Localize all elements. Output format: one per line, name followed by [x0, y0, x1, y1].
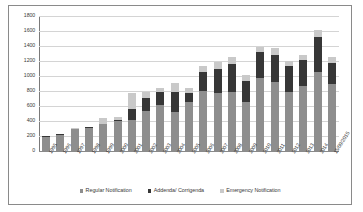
bar-segment	[156, 92, 164, 104]
bar-series-container	[39, 16, 339, 151]
bar-segment	[299, 86, 307, 151]
bar-segment	[328, 63, 336, 84]
bar-segment	[271, 55, 279, 82]
bar-segment	[228, 92, 236, 151]
bar-segment	[271, 82, 279, 151]
bar-segment	[171, 92, 179, 113]
bar-segment	[271, 48, 279, 55]
bar-segment	[171, 83, 179, 92]
bar-group[interactable]	[314, 30, 322, 152]
bar-group[interactable]	[214, 62, 222, 151]
x-axis-tick-labels: 1995199619971998199920002001200220032004…	[39, 152, 339, 192]
y-tick-label-0: 0	[32, 148, 35, 153]
bar-segment	[299, 60, 307, 86]
bar-segment	[256, 52, 264, 78]
bar-segment	[214, 69, 222, 93]
legend-swatch-icon	[80, 189, 84, 193]
legend-item[interactable]: Emergency Notification	[220, 188, 280, 193]
y-tick-label-1800: 1800	[24, 13, 35, 18]
legend-swatch-icon	[220, 189, 224, 193]
bar-segment	[285, 92, 293, 151]
bar-segment	[128, 93, 136, 109]
bar-segment	[214, 93, 222, 152]
legend-label: Regular Notification	[86, 188, 132, 193]
bar-segment	[185, 93, 193, 103]
bar-segment	[228, 64, 236, 92]
legend-item[interactable]: Regular Notification	[80, 188, 132, 193]
bar-segment	[328, 84, 336, 151]
bar-segment	[185, 102, 193, 151]
bar-segment	[242, 102, 250, 152]
y-tick-label-200: 200	[27, 133, 35, 138]
bar-segment	[199, 72, 207, 91]
bar-group[interactable]	[256, 47, 264, 151]
legend-label: Emergency Notification	[226, 188, 280, 193]
bar-segment	[228, 57, 236, 64]
bar-segment	[128, 109, 136, 119]
bar-segment	[199, 91, 207, 151]
y-axis-tick-labels: 020040060080010001200140016001800	[9, 16, 37, 151]
bar-segment	[285, 66, 293, 92]
plot-area	[39, 16, 339, 151]
legend-swatch-icon	[148, 189, 152, 193]
bar-group[interactable]	[228, 57, 236, 151]
bar-group[interactable]	[299, 55, 307, 151]
y-tick-label-1200: 1200	[24, 58, 35, 63]
bar-segment	[314, 37, 322, 72]
bar-group[interactable]	[242, 75, 250, 151]
y-tick-label-1400: 1400	[24, 43, 35, 48]
chart-frame: 020040060080010001200140016001800 199519…	[8, 5, 352, 205]
bar-group[interactable]	[285, 61, 293, 151]
chart-legend: Regular NotificationAddenda/ CorrigendaE…	[9, 188, 351, 193]
bar-group[interactable]	[171, 83, 179, 151]
bar-group[interactable]	[199, 66, 207, 151]
y-tick-label-600: 600	[27, 103, 35, 108]
bar-segment	[242, 81, 250, 102]
bar-group[interactable]	[142, 92, 150, 151]
bar-segment	[256, 78, 264, 152]
y-tick-label-800: 800	[27, 88, 35, 93]
bar-group[interactable]	[185, 88, 193, 151]
bar-segment	[314, 30, 322, 38]
bar-group[interactable]	[128, 93, 136, 151]
bar-group[interactable]	[156, 88, 164, 151]
bar-group[interactable]	[328, 57, 336, 151]
bar-segment	[314, 72, 322, 151]
y-tick-label-400: 400	[27, 118, 35, 123]
legend-item[interactable]: Addenda/ Corrigenda	[148, 188, 204, 193]
bar-segment	[142, 98, 150, 111]
bar-group[interactable]	[271, 48, 279, 151]
legend-label: Addenda/ Corrigenda	[154, 188, 204, 193]
y-tick-label-1000: 1000	[24, 73, 35, 78]
y-tick-label-1600: 1600	[24, 28, 35, 33]
